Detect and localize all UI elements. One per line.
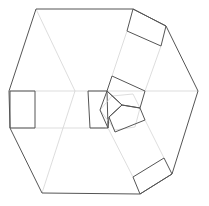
side-rectangles	[10, 9, 172, 194]
guide-line	[36, 9, 75, 91]
pentagon	[107, 76, 145, 108]
guide-line	[112, 31, 127, 76]
guide-line	[145, 120, 164, 158]
guide-line	[145, 46, 161, 91]
guide-line	[42, 91, 75, 193]
guide-line	[108, 128, 133, 177]
side-rectangle	[10, 91, 35, 128]
hexagon-net-diagram	[0, 0, 209, 206]
side-rectangle	[133, 158, 172, 194]
side-rectangle	[127, 9, 166, 46]
